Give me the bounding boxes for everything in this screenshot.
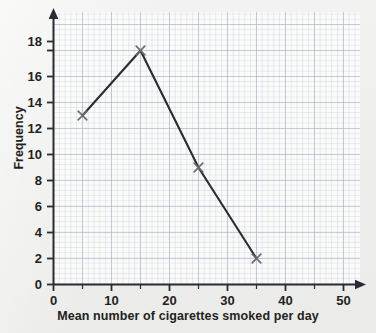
x-tick-label-50: 50 <box>331 293 357 308</box>
data-point-marker <box>78 111 87 120</box>
y-tick-label-6: 6 <box>16 199 42 214</box>
y-axis-title: Frequency <box>12 83 26 193</box>
y-tick-label-18: 18 <box>16 34 42 49</box>
data-series-layer <box>0 0 376 333</box>
y-tick-label-16: 16 <box>16 69 42 84</box>
data-point-marker <box>194 163 203 172</box>
y-tick-label-0: 0 <box>16 277 42 292</box>
data-point-markers <box>78 46 261 263</box>
chart-screenshot: 0 2 4 6 8 10 12 14 16 18 0 10 20 30 40 5… <box>0 0 376 333</box>
line-chart-figure: 0 2 4 6 8 10 12 14 16 18 0 10 20 30 40 5… <box>0 0 376 333</box>
x-tick-label-30: 30 <box>215 293 241 308</box>
x-tick-label-40: 40 <box>273 293 299 308</box>
data-point-marker <box>136 46 145 55</box>
data-point-marker <box>252 254 261 263</box>
x-tick-label-20: 20 <box>157 293 183 308</box>
x-tick-label-10: 10 <box>99 293 125 308</box>
y-tick-label-2: 2 <box>16 251 42 266</box>
y-tick-label-4: 4 <box>16 225 42 240</box>
x-axis-title: Mean number of cigarettes smoked per day <box>0 309 376 323</box>
x-tick-label-0: 0 <box>41 293 67 308</box>
frequency-polyline <box>83 51 257 259</box>
